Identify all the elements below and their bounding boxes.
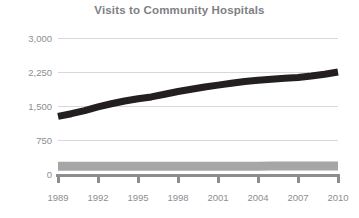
x-axis-tick-label: 2010 [321, 192, 355, 203]
x-axis-tick [257, 177, 260, 183]
x-axis-tick [137, 177, 140, 183]
data-series-outpatient-visits [58, 72, 338, 116]
chart-container: Visits to Community Hospitals 3,000 2,25… [0, 0, 359, 218]
x-axis-tick-label: 2001 [201, 192, 235, 203]
x-axis-tick [337, 177, 340, 183]
x-axis-tick-label: 1989 [41, 192, 75, 203]
x-axis-tick [297, 177, 300, 183]
x-axis-tick-label: 1995 [121, 192, 155, 203]
x-axis-tick-label: 1998 [161, 192, 195, 203]
x-axis-tick [57, 177, 60, 183]
data-series-layer [0, 0, 359, 218]
x-axis-tick [217, 177, 220, 183]
x-axis-tick [97, 177, 100, 183]
x-axis-tick [177, 177, 180, 183]
x-axis-tick-label: 2007 [281, 192, 315, 203]
x-axis-tick-label: 2004 [241, 192, 275, 203]
x-axis-tick-label: 1992 [81, 192, 115, 203]
